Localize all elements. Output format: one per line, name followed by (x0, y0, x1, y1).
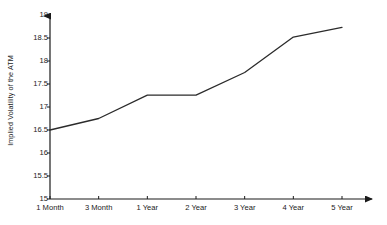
x-axis-tick-label: 3 Year (234, 203, 256, 212)
x-axis-tick-label: 2 Year (185, 203, 207, 212)
data-series-line (50, 27, 342, 130)
x-axis-tick-label: 3 Month (85, 203, 112, 212)
x-axis-tick-label: 5 Year (331, 203, 353, 212)
x-axis-tick-label: 1 Year (137, 203, 159, 212)
x-axis-tick-label: 4 Year (283, 203, 305, 212)
chart-container: Implied Volatility of the ATM 1515.51616… (0, 0, 387, 225)
plot-area (0, 0, 387, 225)
x-axis-tick-label: 1 Month (36, 203, 63, 212)
